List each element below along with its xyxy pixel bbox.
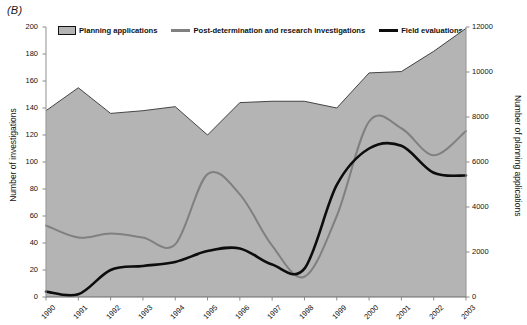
y-tick-label-left-60: 60	[12, 211, 38, 220]
y-tick-label-right-12000: 12000	[472, 22, 502, 31]
y-tick-label-left-180: 180	[12, 49, 38, 58]
y-tick-label-left-80: 80	[12, 184, 38, 193]
y-tick-label-left-120: 120	[12, 130, 38, 139]
y-tick-label-left-20: 20	[12, 265, 38, 274]
y-tick-label-left-140: 140	[12, 103, 38, 112]
y-tick-label-left-0: 0	[12, 292, 38, 301]
y-tick-label-left-200: 200	[12, 22, 38, 31]
y-tick-label-right-6000: 6000	[472, 157, 502, 166]
y-tick-label-right-10000: 10000	[472, 67, 502, 76]
plot-area	[0, 0, 527, 325]
y-tick-label-left-160: 160	[12, 76, 38, 85]
y-tick-label-right-0: 0	[472, 292, 502, 301]
y-tick-label-right-8000: 8000	[472, 112, 502, 121]
y-tick-label-left-40: 40	[12, 238, 38, 247]
y-tick-label-right-2000: 2000	[472, 247, 502, 256]
y-tick-label-left-100: 100	[12, 157, 38, 166]
y-tick-label-right-4000: 4000	[472, 202, 502, 211]
